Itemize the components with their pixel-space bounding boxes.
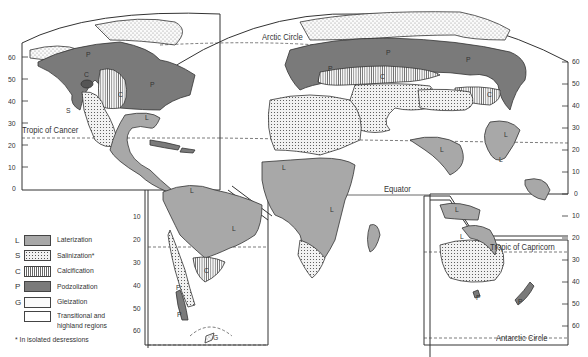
lat-tick-right-10s: 10 bbox=[572, 211, 580, 220]
north-america bbox=[30, 19, 195, 192]
lat-tick-right-30s: 30 bbox=[572, 255, 580, 264]
gleization-swatch bbox=[24, 297, 51, 308]
legend: L Laterization S Salinization* C Calcifi… bbox=[15, 233, 145, 344]
podzolization-swatch bbox=[24, 281, 51, 292]
region-letter-calcification-eurasia: C bbox=[380, 72, 385, 81]
region-letter-podzolization-sa-south: P bbox=[177, 310, 182, 319]
salinization-swatch bbox=[24, 250, 51, 261]
arctic-circle-label: Arctic Circle bbox=[262, 32, 303, 42]
region-letter-podzolization-tasmania: P bbox=[476, 293, 481, 302]
legend-key: S bbox=[15, 251, 24, 260]
region-letter-calcification-sa: C bbox=[204, 266, 209, 275]
region-letter-podzolization-na: P bbox=[86, 50, 91, 59]
tropic-of-cancer-label: Tropic of Cancer bbox=[22, 125, 78, 135]
region-letter-calcification-na-west: C bbox=[84, 70, 89, 79]
region-letter-laterization-na: L bbox=[145, 113, 149, 122]
region-letter-podzolization-sa: P bbox=[176, 283, 181, 292]
region-letter-podzolization-eurasia: P bbox=[386, 48, 391, 57]
arctic-circle-line bbox=[160, 43, 330, 46]
lat-tick-na-20: 20 bbox=[8, 141, 16, 150]
lat-tick-right-50n: 50 bbox=[572, 79, 580, 88]
legend-item-gleization: G Gleization bbox=[15, 295, 145, 309]
lat-tick-right-20n: 20 bbox=[572, 145, 580, 154]
legend-key: P bbox=[15, 282, 24, 291]
lat-tick-na-0: 0 bbox=[12, 184, 16, 193]
region-letter-salinization-na: S bbox=[66, 106, 71, 115]
legend-item-laterization: L Laterization bbox=[15, 233, 145, 247]
lat-tick-na-30: 30 bbox=[8, 119, 16, 128]
region-letter-podzolization-na-east: P bbox=[150, 80, 155, 89]
legend-footnote: * In isolated desressions bbox=[15, 335, 126, 344]
lat-tick-na-40: 40 bbox=[8, 97, 16, 106]
lat-tick-right-0: 0 bbox=[574, 189, 578, 198]
lat-tick-right-30n: 30 bbox=[572, 123, 580, 132]
region-letter-laterization-sa-east: L bbox=[232, 224, 236, 233]
region-letter-gleization-antarctica: G bbox=[213, 333, 218, 342]
lat-tick-na-10: 10 bbox=[8, 163, 16, 172]
lat-tick-right-60n: 60 bbox=[572, 57, 580, 66]
legend-label: Calcification bbox=[57, 266, 94, 276]
lat-tick-right-40n: 40 bbox=[572, 101, 580, 110]
equator-label: Equator bbox=[384, 184, 411, 194]
legend-label: Laterization bbox=[57, 235, 92, 245]
antarctic-circle-label: Antarctic Circle bbox=[496, 333, 547, 343]
region-letter-podzolization-siberia: P bbox=[466, 55, 471, 64]
transitional-swatch bbox=[24, 311, 51, 322]
region-letter-laterization-africa: L bbox=[330, 205, 334, 214]
legend-item-salinization: S Salinization* bbox=[15, 249, 145, 263]
lat-tick-na-60: 60 bbox=[8, 53, 16, 62]
tropic-of-capricorn-label: Tropic of Capricorn bbox=[490, 242, 555, 252]
laterization-swatch bbox=[24, 235, 51, 246]
lat-tick-right-50s: 50 bbox=[572, 299, 580, 308]
legend-key: L bbox=[15, 236, 24, 245]
calcification-swatch bbox=[24, 266, 51, 277]
region-letter-calcification-na: C bbox=[118, 90, 123, 99]
legend-label: Transitional and highland regions bbox=[57, 311, 123, 331]
lat-tick-na-50: 50 bbox=[8, 75, 16, 84]
legend-key: G bbox=[15, 298, 24, 307]
legend-label: Podzolization bbox=[57, 282, 97, 292]
region-letter-podzolization-europe: P bbox=[328, 64, 333, 73]
lat-tick-right-10n: 10 bbox=[572, 167, 580, 176]
region-letter-laterization-australia: L bbox=[460, 232, 464, 241]
lat-tick-right-60s: 60 bbox=[572, 321, 580, 330]
region-letter-laterization-sa: L bbox=[190, 186, 194, 195]
south-america bbox=[163, 185, 262, 343]
legend-item-transitional: Transitional and highland regions bbox=[15, 311, 145, 333]
australia bbox=[440, 203, 534, 305]
legend-label: Gleization bbox=[57, 297, 87, 307]
region-letter-laterization-new-guinea: L bbox=[455, 205, 459, 214]
region-letter-laterization-india: L bbox=[440, 145, 444, 154]
region-letter-laterization-africa-west: L bbox=[282, 163, 286, 172]
region-letter-calcification-asia: C bbox=[487, 90, 492, 99]
region-letter-laterization-china: L bbox=[504, 130, 508, 139]
legend-key: C bbox=[15, 267, 24, 276]
lat-tick-right-40s: 40 bbox=[572, 277, 580, 286]
legend-label: Salinization* bbox=[57, 251, 94, 261]
legend-item-calcification: C Calcification bbox=[15, 264, 145, 278]
lat-tick-right-20s: 20 bbox=[572, 233, 580, 242]
region-letter-laterization-se-asia: L bbox=[499, 155, 503, 164]
lat-tick-sa-10: 10 bbox=[133, 212, 141, 221]
region-letter-podzolization-nz: P bbox=[518, 297, 523, 306]
legend-item-podzolization: P Podzolization bbox=[15, 280, 145, 294]
